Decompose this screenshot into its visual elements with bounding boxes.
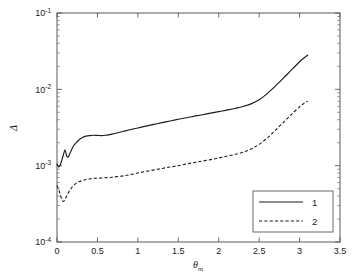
x-tick-label: 0 (54, 246, 59, 256)
x-tick-label: 2.5 (253, 246, 266, 256)
x-tick-label: 3.5 (334, 246, 347, 256)
legend-label-1: 1 (312, 197, 317, 208)
x-tick-label: 0.5 (91, 246, 104, 256)
figure-container: 00.511.522.533.5 10-110-210-310-4 θm Δ 1… (0, 0, 356, 279)
legend[interactable]: 1 2 (253, 191, 333, 232)
x-tick-label: 2 (216, 246, 221, 256)
figure-background (0, 0, 356, 279)
legend-label-2: 2 (312, 216, 317, 227)
x-tick-label: 1.5 (172, 246, 185, 256)
legend-frame (253, 191, 333, 232)
x-tick-label: 1 (135, 246, 140, 256)
x-tick-label: 3 (297, 246, 302, 256)
chart-svg: 00.511.522.533.5 10-110-210-310-4 θm Δ 1… (0, 0, 356, 279)
y-axis-title: Δ (8, 125, 19, 132)
